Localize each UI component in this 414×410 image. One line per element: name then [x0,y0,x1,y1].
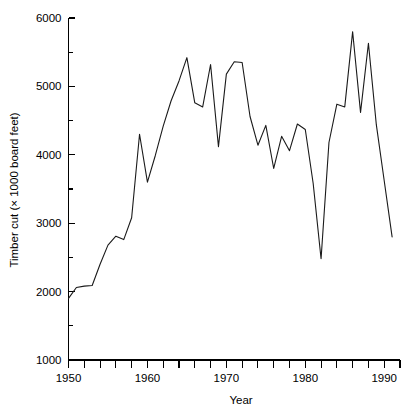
y-axis-title: Timber cut (× 1000 board feet) [8,112,20,267]
x-tick-label-1950: 1950 [56,372,82,384]
y-tick-label-3000: 3000 [36,217,62,229]
y-tick-label-1000: 1000 [36,354,62,366]
y-axis-tick-labels: 100020003000400050006000 [36,12,62,366]
x-tick-label-1980: 1980 [292,372,318,384]
axes [69,18,401,360]
x-tick-label-1970: 1970 [214,372,240,384]
x-axis-title: Year [229,394,252,406]
x-axis-tick-labels: 19501960197019801990 [56,372,397,384]
y-tick-label-5000: 5000 [36,80,62,92]
data-series-group [69,32,393,299]
data-line-0 [69,32,393,299]
y-axis-ticks [69,18,75,360]
x-tick-label-1960: 1960 [135,372,161,384]
timber-cut-line-chart: 100020003000400050006000 195019601970198… [0,0,414,410]
y-tick-label-4000: 4000 [36,149,62,161]
x-tick-label-1990: 1990 [371,372,397,384]
y-tick-label-6000: 6000 [36,12,62,24]
x-axis-ticks [69,360,401,368]
chart-canvas: 100020003000400050006000 195019601970198… [0,0,414,410]
y-tick-label-2000: 2000 [36,286,62,298]
